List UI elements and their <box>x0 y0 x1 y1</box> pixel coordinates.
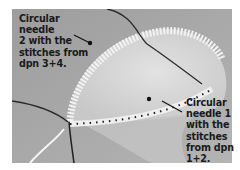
annotation-needle-2: Circular needle 2 with the stitches from… <box>19 13 94 69</box>
annotation-needle-1: Circular needle 1 with the stitches from… <box>186 97 236 164</box>
pointer-dot-needle-1 <box>147 97 151 101</box>
